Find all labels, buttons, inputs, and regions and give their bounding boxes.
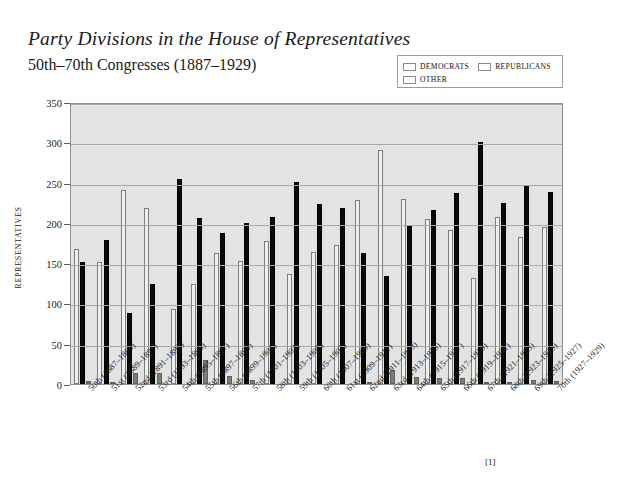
legend-label-other: Other <box>420 75 447 84</box>
legend-swatch-democrats <box>403 63 416 71</box>
bar-democrats[interactable] <box>74 249 79 384</box>
y-axis-tick-label: 0 <box>57 380 62 391</box>
bar-democrats[interactable] <box>471 278 476 384</box>
bar-republicans[interactable] <box>340 208 345 384</box>
bar-group <box>71 104 94 384</box>
gridline <box>71 104 562 105</box>
y-axis: Representatives 050100150200250300350 <box>0 103 70 386</box>
gridline <box>71 305 562 306</box>
legend-label-republicans: Republicans <box>495 62 551 71</box>
bar-democrats[interactable] <box>214 253 219 384</box>
bar-republicans[interactable] <box>244 223 249 384</box>
legend-item-other[interactable]: Other <box>403 75 447 84</box>
bar-group <box>94 104 117 384</box>
gridline <box>71 265 562 266</box>
bar-democrats[interactable] <box>238 261 243 384</box>
bar-democrats[interactable] <box>264 241 269 384</box>
bar-democrats[interactable] <box>334 245 339 384</box>
legend-row: Democrats Republicans <box>403 60 557 73</box>
chart-title: Party Divisions in the House of Represen… <box>28 28 410 50</box>
bar-republicans[interactable] <box>317 204 322 384</box>
bar-republicans[interactable] <box>80 262 85 384</box>
bar-republicans[interactable] <box>197 218 202 384</box>
chart-figure: Party Divisions in the House of Represen… <box>0 0 635 496</box>
gridline <box>71 185 562 186</box>
y-axis-tick-label: 300 <box>46 138 62 149</box>
chart-legend: Democrats Republicans Other <box>397 55 563 88</box>
legend-label-democrats: Democrats <box>420 62 469 71</box>
y-axis-tick-label: 250 <box>46 178 62 189</box>
gridline <box>71 144 562 145</box>
y-axis-tick-label: 150 <box>46 259 62 270</box>
y-axis-tick-label: 350 <box>46 98 62 109</box>
footnote-marker: [1] <box>485 457 496 467</box>
y-axis-tick-label: 200 <box>46 218 62 229</box>
bar-republicans[interactable] <box>220 233 225 384</box>
legend-swatch-other <box>403 76 416 84</box>
gridline <box>71 225 562 226</box>
bar-democrats[interactable] <box>311 252 316 384</box>
bar-democrats[interactable] <box>97 262 102 384</box>
legend-swatch-republicans <box>478 63 491 71</box>
legend-row: Other <box>403 73 557 86</box>
y-axis-tick-label: 50 <box>52 339 63 350</box>
y-axis-title: Representatives <box>14 168 23 328</box>
chart-subtitle: 50th–70th Congresses (1887–1929) <box>28 56 256 74</box>
legend-item-republicans[interactable]: Republicans <box>478 62 551 71</box>
x-axis: 50th (1887–1889)51st (1889–1891)52nd (18… <box>70 386 563 496</box>
legend-item-democrats[interactable]: Democrats <box>403 62 469 71</box>
y-axis-tick-label: 100 <box>46 299 62 310</box>
